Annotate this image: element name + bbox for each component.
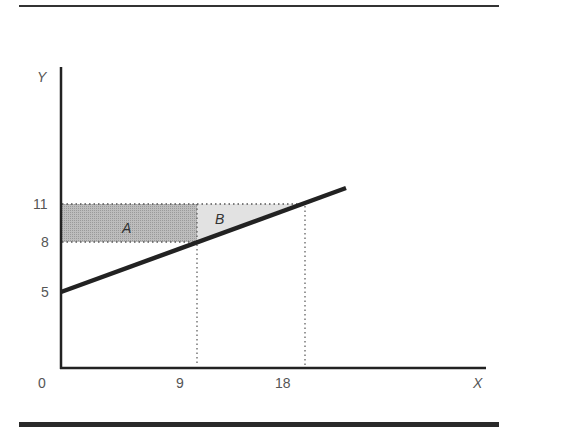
region-a-label: A: [122, 221, 131, 235]
x-tick-18: 18: [275, 376, 291, 390]
y-tick-11: 11: [33, 197, 48, 211]
x-axis-label: X: [473, 376, 482, 390]
y-tick-8: 8: [41, 235, 49, 249]
bottom-rule: [19, 422, 499, 427]
chart-plot: [0, 0, 568, 427]
region-b-label: B: [215, 212, 224, 226]
y-axis-label: Y: [37, 70, 46, 84]
y-tick-5: 5: [41, 285, 49, 299]
origin-label: 0: [38, 376, 46, 390]
x-tick-9: 9: [176, 376, 184, 390]
